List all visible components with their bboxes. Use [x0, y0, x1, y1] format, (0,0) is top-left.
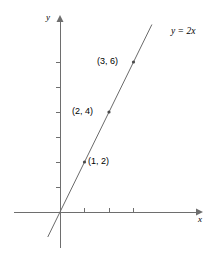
data-point-marker	[83, 160, 86, 163]
point-label-1-2: (1, 2)	[88, 156, 109, 166]
graph-canvas	[0, 0, 213, 253]
coordinate-graph-figure: y x y = 2x (1, 2) (2, 4) (3, 6)	[0, 0, 213, 253]
data-point-marker	[107, 110, 110, 113]
x-axis-label: x	[198, 214, 202, 224]
y-axis-arrow-icon	[57, 15, 64, 22]
data-point-marker	[132, 60, 135, 63]
y-axis-label: y	[46, 12, 50, 22]
point-label-3-6: (3, 6)	[97, 56, 118, 66]
equation-label: y = 2x	[171, 26, 195, 36]
point-label-2-4: (2, 4)	[72, 106, 93, 116]
